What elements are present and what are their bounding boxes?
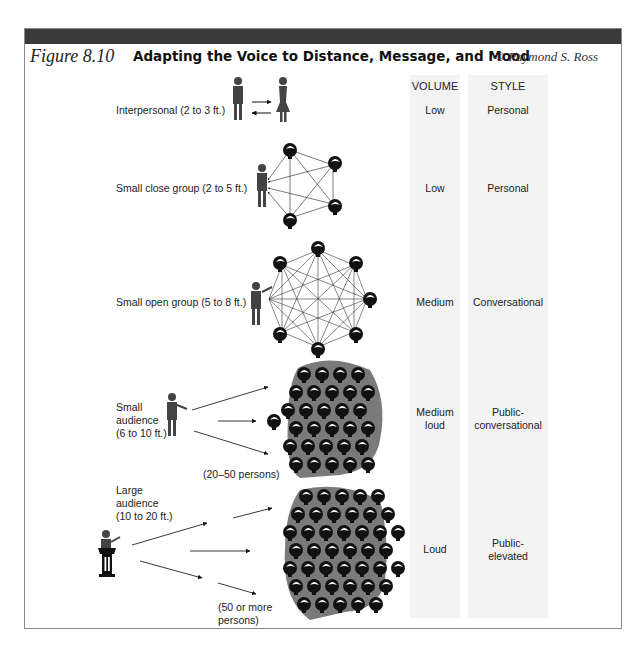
small-open-group-network (251, 241, 377, 358)
small-audience-crowd (267, 360, 382, 478)
diagram-artwork (0, 0, 637, 657)
man-figure-icon (233, 77, 243, 120)
audience-head-icon (391, 525, 405, 541)
audience-head-icon (379, 579, 393, 595)
large-audience-crowd (283, 487, 405, 620)
audience-head-icon (391, 561, 405, 577)
audience-head-icon (369, 597, 383, 613)
speaker-at-podium-icon (98, 530, 120, 577)
audience-head-icon (267, 414, 281, 430)
small-close-group-network (257, 143, 342, 229)
speaker-small-audience-icon (167, 393, 187, 436)
audience-head-icon (361, 457, 375, 473)
woman-figure-icon (276, 77, 290, 122)
